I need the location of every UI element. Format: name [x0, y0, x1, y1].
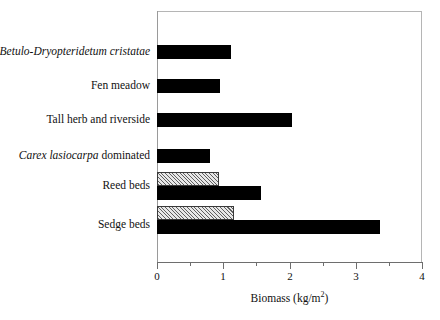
- x-tick-label: 1: [213, 270, 233, 282]
- category-label-roman: Fen meadow: [91, 79, 150, 91]
- bar-solid-tall-herb-and-riverside: [157, 113, 292, 127]
- category-label-roman: Tall herb and riverside: [46, 113, 150, 125]
- x-axis-title-text: Biomass (kg/m: [251, 292, 321, 304]
- x-tick-label: 0: [147, 270, 167, 282]
- x-tick-minor: [256, 263, 257, 266]
- x-tick-minor: [389, 263, 390, 266]
- bar-hatched-reed-beds: [157, 172, 219, 186]
- x-tick-major: [157, 263, 158, 269]
- bar-solid-betulo-dryopteridetum-cristatae: [157, 45, 231, 59]
- biomass-bar-chart: 01234 Betulo-Dryopteridetum cristataeFen…: [0, 0, 440, 320]
- category-label-roman: Sedge beds: [98, 218, 150, 230]
- category-label-roman: dominated: [99, 149, 150, 161]
- x-tick-label: 3: [346, 270, 366, 282]
- x-tick-minor: [190, 263, 191, 266]
- bar-solid-sedge-beds: [157, 220, 380, 234]
- x-axis-title: Biomass (kg/m2): [157, 291, 422, 305]
- x-tick-major: [356, 263, 357, 269]
- category-label-italic: Betulo-Dryopteridetum cristatae: [0, 45, 150, 57]
- x-tick-major: [290, 263, 291, 269]
- x-axis-title-tail: ): [325, 292, 329, 304]
- category-label-italic: Carex lasiocarpa: [19, 149, 99, 161]
- x-tick-label: 4: [412, 270, 432, 282]
- x-tick-label: 2: [280, 270, 300, 282]
- bar-hatched-sedge-beds: [157, 206, 234, 220]
- bar-solid-fen-meadow: [157, 79, 220, 93]
- bar-solid-carex-lasiocarpa-dominated: [157, 149, 210, 163]
- x-tick-minor: [323, 263, 324, 266]
- x-tick-major: [422, 263, 423, 269]
- category-label-roman: Reed beds: [102, 179, 150, 191]
- x-tick-major: [223, 263, 224, 269]
- bar-solid-reed-beds: [157, 186, 261, 200]
